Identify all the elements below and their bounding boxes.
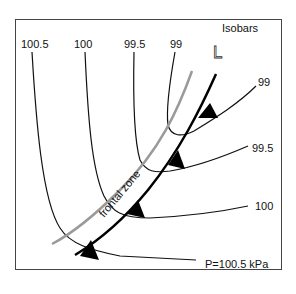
isobar-label-right: 100 (255, 200, 273, 212)
legend-title: Isobars (222, 22, 259, 34)
diagram-frame (16, 20, 282, 270)
low-pressure-symbol: L (213, 43, 222, 62)
isobar-label-top: 99.5 (124, 38, 145, 50)
isobar-diagram: Isobars L 100.5 100 99.5 99 99 99.5 100 … (0, 0, 296, 294)
isobar-label-top: 100.5 (21, 38, 49, 50)
isobar-label-top: 100 (74, 38, 92, 50)
isobar-label-top: 99 (170, 38, 182, 50)
isobar-label-right: 99.5 (252, 142, 273, 154)
isobar-label-right: 99 (258, 76, 270, 88)
isobar-label-right: P=100.5 kPa (205, 258, 269, 270)
